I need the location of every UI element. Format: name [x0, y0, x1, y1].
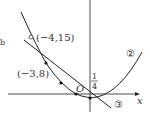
- fraction-denominator: 4: [92, 82, 97, 91]
- parabola-label: ②: [126, 48, 135, 59]
- stray-mark: b: [0, 38, 5, 47]
- origin-label: O: [76, 83, 84, 94]
- point-label: (−3,8): [17, 68, 49, 79]
- point-label: (−4,15): [36, 32, 75, 43]
- point-marker: [44, 61, 47, 64]
- point-marker: [59, 81, 62, 84]
- line-label: ③: [114, 99, 123, 110]
- fraction-numerator: 1: [92, 72, 97, 81]
- point-marker: [88, 96, 91, 99]
- open-point-marker: [29, 35, 33, 39]
- graph: (−4,15) (−3,8) O 1 4 x ③ ② b: [0, 0, 150, 119]
- x-axis-label: x: [137, 95, 143, 106]
